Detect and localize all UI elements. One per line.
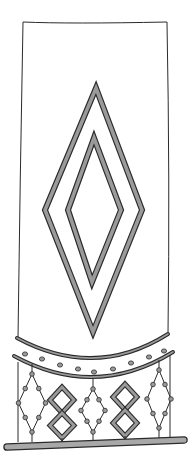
double-diamond-outer [113,410,137,436]
band-dot [91,370,96,374]
bead [157,426,162,431]
bead [30,372,35,377]
beaded-diamond-outline [19,374,46,432]
double-diamond-fill [50,413,74,438]
small-diamond-fill [68,138,121,282]
bead [23,386,28,391]
illustration-canvas [0,0,192,460]
band-dot [110,367,115,371]
banner-illustration [0,0,192,460]
band-dot [128,361,133,365]
bead [151,382,156,387]
bead [79,408,84,413]
double-diamond-fill [113,410,137,436]
band-dot [146,355,151,359]
band-dot [57,363,62,367]
band-dot [39,357,44,361]
bead [16,401,21,406]
large-diamond-fill [45,88,142,332]
base-bar-fill [7,440,184,447]
large-diamond-outer [45,88,142,332]
bead [157,368,162,373]
double-diamond-fill [50,387,74,413]
bead [145,397,150,402]
band-dot [22,352,27,356]
bead [85,419,90,424]
bead [151,411,156,416]
small-diamond-outer [68,138,121,282]
bead [91,387,96,392]
band-dot [75,367,80,371]
band-dot [161,349,166,353]
double-diamond-outer [113,384,137,410]
bead [23,415,28,420]
bead [163,411,168,416]
bead [91,430,96,435]
bead [43,401,48,406]
double-diamond-fill [113,384,137,410]
bead [97,419,102,424]
bead [169,397,174,402]
bead [163,382,168,387]
beaded-diamond-outline [81,389,105,432]
bead [97,397,102,402]
banner-panel-outline [18,22,169,338]
bead [36,415,41,420]
bead [36,386,41,391]
beaded-diamond-outline [147,370,171,428]
double-diamond-outer [50,413,74,438]
bead [85,397,90,402]
bead [30,430,35,435]
bead [103,408,108,413]
double-diamond-outer [50,387,74,413]
